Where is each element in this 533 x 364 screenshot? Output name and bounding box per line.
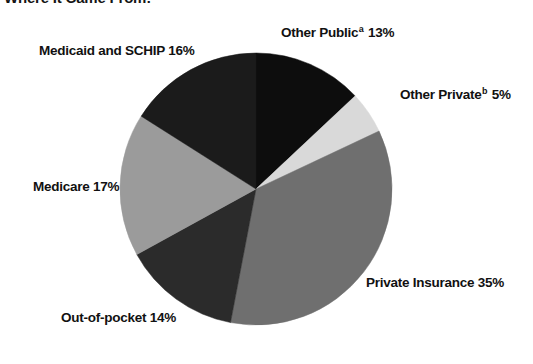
footnote-marker-a: a [359,24,364,34]
pie-label-medicaid-schip: Medicaid and SCHIP 16% [39,44,195,59]
footnote-marker-b: b [482,86,487,96]
pie-label-private-insurance-value: 35% [478,275,504,290]
pie-label-out-of-pocket-text: Out-of-pocket [61,310,150,325]
pie-label-private-insurance-text: Private Insurance [366,275,478,290]
pie-label-medicaid-schip-value: 16% [168,43,194,58]
pie-label-out-of-pocket: Out-of-pocket 14% [61,311,176,326]
pie-label-other-private-value: 5% [488,87,511,102]
pie-label-other-public-value: 13% [365,25,395,40]
pie-label-out-of-pocket-value: 14% [150,310,176,325]
pie-label-medicare-value: 17% [93,179,119,194]
pie-label-other-private-text: Other Private [400,87,482,102]
pie-slice-group [120,53,392,325]
pie-label-other-public-text: Other Public [281,25,358,40]
pie-label-other-private: Other Privateb 5% [400,88,511,103]
pie-label-medicare-text: Medicare [33,179,93,194]
pie-label-medicaid-schip-text: Medicaid and SCHIP [39,43,168,58]
pie-label-other-public: Other Publica 13% [281,26,394,41]
pie-label-private-insurance: Private Insurance 35% [366,276,504,291]
pie-label-medicare: Medicare 17% [33,180,119,195]
